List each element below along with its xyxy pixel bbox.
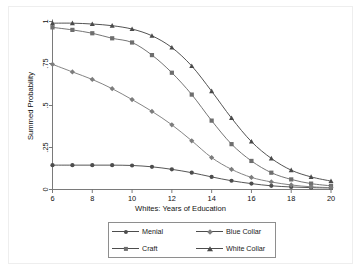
data-point-circle	[90, 163, 94, 167]
x-tick-label: 16	[247, 194, 255, 203]
y-tick-label: .5	[41, 102, 50, 108]
data-point-square	[190, 92, 194, 96]
data-point-diamond	[269, 179, 274, 184]
legend-label-white-collar: White Collar	[226, 244, 265, 253]
data-point-square	[229, 142, 233, 146]
legend-label-blue-collar: Blue Collar	[226, 227, 261, 236]
data-point-square	[50, 25, 54, 29]
legend-label-menial: Menial	[142, 227, 163, 236]
data-point-circle	[249, 182, 253, 186]
data-point-diamond	[129, 97, 134, 102]
x-tick-label: 6	[50, 194, 54, 203]
x-axis-title: Whites: Years of Education	[0, 204, 361, 213]
legend-marker-triangle-icon	[196, 243, 223, 254]
data-point-circle	[130, 163, 134, 167]
x-tick-label: 12	[168, 194, 176, 203]
legend-item-white-collar[interactable]: White Collar	[193, 240, 277, 257]
legend-marker-square-icon	[112, 243, 139, 254]
legend-label-craft: Craft	[142, 244, 158, 253]
data-point-diamond	[110, 86, 115, 91]
legend-marker-circle-icon	[112, 226, 139, 237]
data-point-circle	[190, 171, 194, 175]
data-point-circle	[170, 167, 174, 171]
x-tick-label: 8	[90, 194, 94, 203]
y-axis-title: Summed Probability	[26, 72, 35, 140]
data-point-square	[289, 177, 293, 181]
data-point-diamond	[70, 69, 75, 74]
y-tick-label: .25	[41, 142, 50, 152]
y-tick-label: 0	[41, 187, 50, 191]
series-white-collar	[50, 21, 334, 184]
data-point-circle	[210, 175, 214, 179]
data-point-square	[210, 119, 214, 123]
x-tick-label: 10	[128, 194, 136, 203]
data-point-triangle	[289, 168, 294, 173]
data-point-square	[249, 159, 253, 163]
data-point-circle	[110, 163, 114, 167]
data-point-circle	[150, 165, 154, 169]
legend-item-menial[interactable]: Menial	[109, 223, 193, 240]
x-tick-label: 14	[208, 194, 216, 203]
data-point-triangle	[269, 156, 274, 161]
chart-legend: Menial Blue Collar Craft White Collar	[108, 222, 276, 258]
data-point-square	[150, 53, 154, 57]
data-point-square	[170, 71, 174, 75]
data-point-square	[130, 40, 134, 44]
series-line	[53, 23, 332, 181]
data-point-circle	[229, 179, 233, 183]
data-point-square	[70, 28, 74, 32]
chart-figure: 0.25.5.75168101214161820 Summed Probabil…	[0, 0, 361, 273]
data-point-diamond	[249, 175, 254, 180]
data-point-diamond	[229, 167, 234, 172]
data-point-circle	[70, 163, 74, 167]
data-point-triangle	[169, 45, 174, 50]
x-tick-label: 18	[287, 194, 295, 203]
data-point-diamond	[90, 77, 95, 82]
y-tick-label: 1	[41, 19, 50, 23]
data-point-square	[269, 171, 273, 175]
data-point-square	[110, 36, 114, 40]
legend-item-blue-collar[interactable]: Blue Collar	[193, 223, 277, 240]
data-point-diamond	[50, 62, 55, 67]
series-line	[53, 27, 332, 185]
legend-marker-diamond-icon	[196, 226, 223, 237]
legend-item-craft[interactable]: Craft	[109, 240, 193, 257]
y-tick-label: .75	[41, 58, 50, 68]
data-point-diamond	[149, 109, 154, 114]
data-point-square	[90, 31, 94, 35]
data-point-circle	[50, 163, 54, 167]
x-tick-label: 20	[327, 194, 335, 203]
